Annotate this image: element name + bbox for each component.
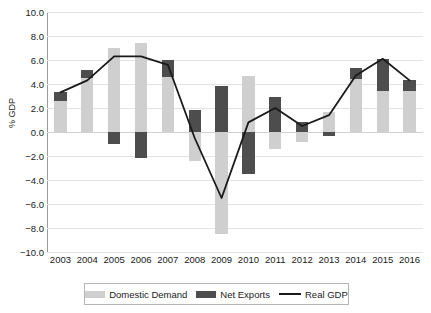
- plot-area: [47, 12, 423, 252]
- y-axis-ticks: 10.08.06.04.02.00.0−2.0−4.0−6.0−8.0−10.0: [0, 12, 44, 252]
- y-tick-label: −2.0: [4, 151, 44, 162]
- x-tick-label: 2013: [318, 254, 339, 265]
- y-tick-label: 0.0: [4, 127, 44, 138]
- x-tick-label: 2011: [265, 254, 285, 265]
- swatch-net-exports-icon: [196, 291, 216, 298]
- gridline: [47, 252, 423, 253]
- chart-container: % GDP 10.08.06.04.02.00.0−2.0−4.0−6.0−8.…: [0, 0, 431, 313]
- x-tick-label: 2015: [372, 254, 393, 265]
- x-tick-label: 2009: [211, 254, 232, 265]
- legend-item-net-exports: Net Exports: [196, 289, 270, 300]
- legend-label-real-gdp: Real GDP: [305, 289, 348, 300]
- y-tick-label: 6.0: [4, 55, 44, 66]
- swatch-domestic-demand-icon: [85, 291, 105, 298]
- x-tick-label: 2014: [345, 254, 366, 265]
- y-tick-label: −10.0: [4, 247, 44, 258]
- x-tick-label: 2008: [184, 254, 205, 265]
- y-tick-label: −6.0: [4, 199, 44, 210]
- legend-label-domestic-demand: Domestic Demand: [109, 289, 187, 300]
- x-tick-label: 2006: [130, 254, 151, 265]
- y-tick-label: 8.0: [4, 31, 44, 42]
- y-tick-label: −4.0: [4, 175, 44, 186]
- x-tick-label: 2003: [50, 254, 71, 265]
- x-axis-ticks: 2003200420052006200720082009201020112012…: [47, 254, 423, 270]
- x-tick-label: 2004: [77, 254, 98, 265]
- x-tick-label: 2005: [104, 254, 125, 265]
- x-tick-label: 2007: [157, 254, 178, 265]
- x-tick-label: 2010: [238, 254, 259, 265]
- legend-item-real-gdp: Real GDP: [279, 289, 348, 300]
- y-tick-label: 10.0: [4, 7, 44, 18]
- y-tick-label: 4.0: [4, 79, 44, 90]
- real-gdp-line: [47, 12, 423, 252]
- y-tick-label: −8.0: [4, 223, 44, 234]
- y-tick-label: 2.0: [4, 103, 44, 114]
- legend-label-net-exports: Net Exports: [220, 289, 270, 300]
- legend-item-domestic-demand: Domestic Demand: [85, 289, 187, 300]
- chart-legend: Domestic Demand Net Exports Real GDP: [84, 283, 349, 305]
- swatch-real-gdp-icon: [279, 293, 301, 295]
- x-tick-label: 2016: [399, 254, 420, 265]
- x-tick-label: 2012: [292, 254, 313, 265]
